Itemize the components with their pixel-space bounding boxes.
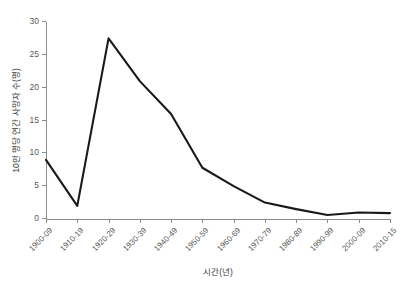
y-tick-label: 20 [30, 82, 39, 93]
y-tick-label: 25 [30, 49, 39, 60]
x-tick-mark [140, 219, 141, 223]
y-tick-label: 30 [30, 16, 39, 27]
y-tick-label: 10 [30, 147, 39, 158]
chart-figure: 051015202530 1900-091910-191920-291930-3… [0, 0, 406, 296]
x-tick-mark [265, 219, 266, 223]
x-tick-mark [202, 219, 203, 223]
x-tick-label: 1960-69 [215, 226, 243, 254]
data-series-line [46, 22, 390, 219]
x-tick-mark [390, 219, 391, 223]
y-tick-label: 0 [34, 213, 39, 224]
x-axis-title: 시간(년) [46, 266, 390, 278]
x-axis-line [46, 219, 390, 220]
x-tick-mark [359, 219, 360, 223]
x-tick-mark [77, 219, 78, 223]
x-tick-label: 1900-09 [27, 226, 55, 254]
x-tick-label: 2000-09 [340, 226, 368, 254]
y-tick-label: 15 [30, 115, 39, 126]
x-tick-label: 2010-15 [371, 226, 399, 254]
x-tick-label: 1970-79 [246, 226, 274, 254]
x-tick-label: 1950-59 [184, 226, 212, 254]
x-tick-mark [109, 219, 110, 223]
x-tick-mark [46, 219, 47, 223]
x-tick-mark [327, 219, 328, 223]
x-tick-mark [296, 219, 297, 223]
y-tick-label: 5 [34, 180, 39, 191]
plot-area [46, 22, 390, 219]
x-tick-label: 1980-89 [277, 226, 305, 254]
x-tick-label: 1940-49 [152, 226, 180, 254]
x-tick-label: 1920-29 [90, 226, 118, 254]
x-tick-mark [234, 219, 235, 223]
y-axis-title: 10만 명당 연간 사망자 수(명) [9, 22, 23, 219]
x-tick-mark [171, 219, 172, 223]
x-tick-label: 1930-39 [121, 226, 149, 254]
x-tick-label: 1910-19 [59, 226, 87, 254]
x-tick-label: 1990-99 [309, 226, 337, 254]
